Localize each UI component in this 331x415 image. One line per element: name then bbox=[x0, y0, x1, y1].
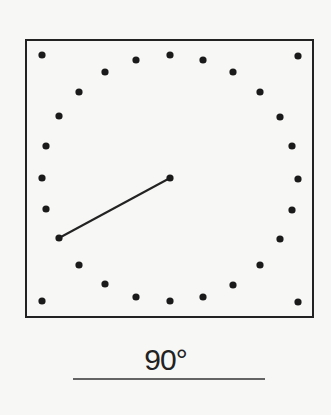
dot bbox=[55, 112, 62, 119]
dot bbox=[38, 297, 45, 304]
dot bbox=[288, 142, 295, 149]
dot bbox=[75, 88, 82, 95]
dot bbox=[132, 56, 139, 63]
angle-ray bbox=[59, 178, 170, 238]
dot bbox=[199, 56, 206, 63]
dot bbox=[42, 205, 49, 212]
dot bbox=[294, 298, 301, 305]
dot bbox=[75, 261, 82, 268]
dot bbox=[256, 88, 263, 95]
dot bbox=[229, 68, 236, 75]
dot bbox=[166, 297, 173, 304]
dot bbox=[132, 293, 139, 300]
dot bbox=[38, 51, 45, 58]
dot bbox=[276, 113, 283, 120]
dot bbox=[166, 51, 173, 58]
dot bbox=[38, 174, 45, 181]
dot bbox=[101, 68, 108, 75]
dot bbox=[288, 206, 295, 213]
dot bbox=[199, 293, 206, 300]
dot bbox=[42, 142, 49, 149]
angle-label: 90° bbox=[0, 343, 331, 377]
dot bbox=[166, 174, 173, 181]
dot bbox=[256, 261, 263, 268]
dot bbox=[229, 281, 236, 288]
dot bbox=[276, 235, 283, 242]
dot bbox=[55, 234, 62, 241]
dot bbox=[294, 175, 301, 182]
dot bbox=[101, 280, 108, 287]
dot bbox=[294, 52, 301, 59]
